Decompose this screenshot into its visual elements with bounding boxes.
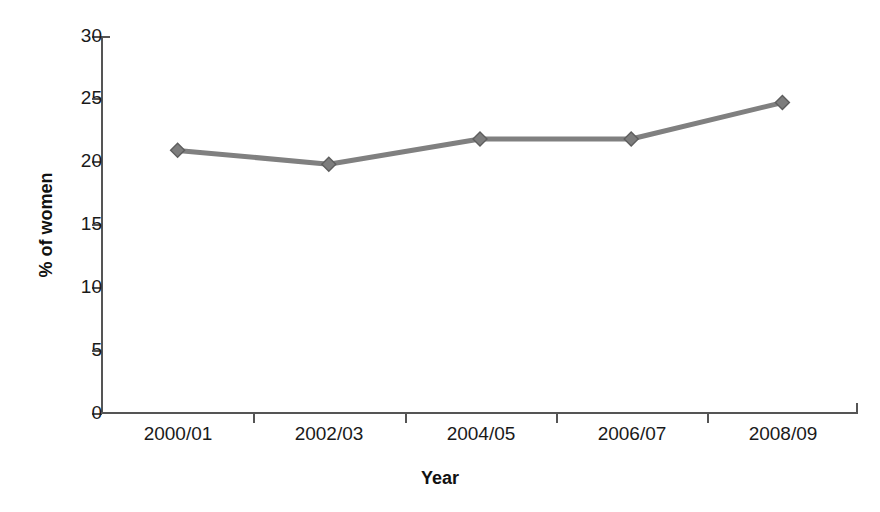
series-markers (171, 96, 790, 172)
y-tick-label: 5 (56, 340, 102, 359)
x-tick-mark-2 (405, 412, 407, 423)
data-point-2002-03 (322, 157, 336, 171)
x-tick-label-2008-09: 2008/09 (707, 423, 859, 445)
line-chart: 30 25 20 15 10 5 0 2000/01 2002/03 2004/… (0, 0, 880, 512)
x-tick-label-2002-03: 2002/03 (253, 423, 405, 445)
x-tick-mark-3 (556, 412, 558, 423)
data-point-2006-07 (624, 132, 638, 146)
data-point-2000-01 (171, 143, 185, 157)
y-tick-label: 30 (56, 26, 102, 45)
x-tick-label-2004-05: 2004/05 (405, 423, 557, 445)
y-axis-title: % of women (36, 45, 57, 405)
x-tick-label-2006-07: 2006/07 (556, 423, 708, 445)
y-axis-top-cap (101, 36, 110, 38)
x-axis-line (101, 412, 858, 414)
y-tick-label: 20 (56, 151, 102, 170)
y-tick-label: 0 (56, 403, 102, 422)
data-point-2008-09 (775, 96, 789, 110)
y-tick-label: 10 (56, 277, 102, 296)
data-point-2004-05 (473, 132, 487, 146)
x-axis-right-cap (856, 403, 858, 414)
x-tick-label-2000-01: 2000/01 (102, 423, 254, 445)
x-tick-mark-1 (253, 412, 255, 423)
y-tick-label: 25 (56, 88, 102, 107)
x-tick-mark-4 (707, 412, 709, 423)
y-tick-label: 15 (56, 214, 102, 233)
series-polyline (178, 103, 783, 165)
x-axis-title: Year (0, 468, 880, 489)
